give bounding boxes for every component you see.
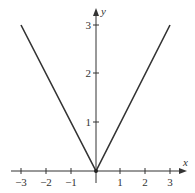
x-axis-label: x (182, 156, 188, 168)
y-axis-arrow-icon (93, 8, 99, 16)
x-tick-label: −2 (40, 176, 52, 188)
y-tick-label: 1 (86, 116, 92, 128)
x-tick-label: 1 (117, 176, 123, 188)
x-tick-label: 3 (167, 176, 173, 188)
x-tick-label: 2 (142, 176, 148, 188)
y-axis-label: y (100, 5, 106, 17)
y-tick-label: 3 (86, 19, 92, 31)
x-tick-label: −1 (65, 176, 77, 188)
chart-canvas: −3 −2 −1 1 2 3 3 2 1 x y (0, 0, 195, 193)
y-tick-label: 2 (86, 67, 92, 79)
x-tick-label: −3 (15, 176, 27, 188)
x-axis-arrow-icon (179, 168, 187, 174)
origin-point (94, 169, 98, 173)
